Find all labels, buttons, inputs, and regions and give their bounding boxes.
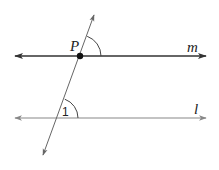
transversal-line (43, 15, 94, 155)
angle-1-label: 1 (62, 105, 69, 119)
line-m-label: m (187, 39, 198, 55)
parallel-lines-diagram: P m l 1 (0, 0, 219, 170)
angle-arc-p (87, 36, 101, 56)
line-l-label: l (194, 101, 198, 117)
point-p-label: P (69, 38, 79, 54)
